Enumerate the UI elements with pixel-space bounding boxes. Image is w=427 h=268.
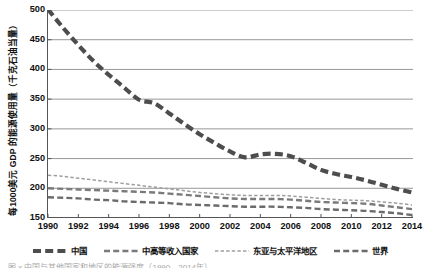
x-tick-label-2004: 2004 bbox=[243, 221, 277, 231]
plot-svg bbox=[47, 10, 413, 218]
legend-item-3[interactable]: 世界 bbox=[334, 246, 388, 256]
legend-swatch-1 bbox=[104, 246, 138, 256]
y-tick-label-450: 450 bbox=[11, 35, 45, 44]
legend-swatch-0 bbox=[33, 246, 67, 256]
x-tick-label-2010: 2010 bbox=[334, 221, 368, 231]
legend-label-0: 中国 bbox=[71, 246, 87, 256]
y-tick-label-350: 350 bbox=[11, 94, 45, 103]
legend-label-2: 东亚与太平洋地区 bbox=[253, 246, 317, 256]
y-tick-label-300: 300 bbox=[11, 124, 45, 133]
x-tick-label-2000: 2000 bbox=[183, 221, 217, 231]
chart-legend: 中国中高等收入国家东亚与太平洋地区世界 bbox=[0, 243, 420, 259]
y-tick-label-250: 250 bbox=[11, 154, 45, 163]
x-axis-tick-labels: 1990199219941996199820002002200420062008… bbox=[47, 221, 413, 235]
x-tick-label-1996: 1996 bbox=[122, 221, 156, 231]
x-tick-label-1990: 1990 bbox=[31, 221, 65, 231]
y-tick-label-400: 400 bbox=[11, 64, 45, 73]
y-tick-label-200: 200 bbox=[11, 183, 45, 192]
series-line-0 bbox=[48, 10, 412, 192]
y-axis-tick-marks bbox=[48, 10, 52, 218]
x-tick-label-2006: 2006 bbox=[274, 221, 308, 231]
legend-item-0[interactable]: 中国 bbox=[33, 246, 87, 256]
x-tick-label-2008: 2008 bbox=[304, 221, 338, 231]
x-tick-label-1992: 1992 bbox=[61, 221, 95, 231]
plot-area bbox=[47, 10, 413, 218]
series-line-1 bbox=[48, 188, 412, 209]
legend-label-3: 世界 bbox=[372, 246, 388, 256]
series-layer bbox=[48, 10, 412, 215]
gridlines bbox=[48, 10, 413, 188]
legend-item-1[interactable]: 中高等收入国家 bbox=[104, 246, 198, 256]
x-tick-label-2002: 2002 bbox=[213, 221, 247, 231]
legend-swatch-3 bbox=[334, 246, 368, 256]
x-tick-label-2012: 2012 bbox=[365, 221, 399, 231]
figure-caption: 图 x 中国与其他国家和地区的能源强度（1990—2014年） bbox=[8, 261, 412, 268]
x-tick-label-1994: 1994 bbox=[92, 221, 126, 231]
x-tick-label-2014: 2014 bbox=[395, 221, 427, 231]
legend-swatch-2 bbox=[215, 246, 249, 256]
legend-item-2[interactable]: 东亚与太平洋地区 bbox=[215, 246, 317, 256]
y-tick-label-500: 500 bbox=[11, 5, 45, 14]
legend-label-1: 中高等收入国家 bbox=[142, 246, 198, 256]
x-tick-label-1998: 1998 bbox=[152, 221, 186, 231]
